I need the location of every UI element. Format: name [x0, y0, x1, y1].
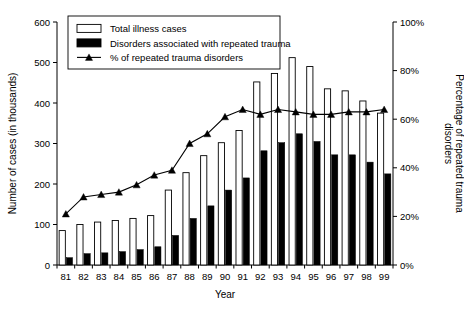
bar-repeated-trauma-disorders — [261, 151, 267, 265]
x-tick-label: 87 — [167, 271, 178, 282]
y-tick-label-left: 300 — [34, 138, 50, 149]
legend-label-total-illness-cases: Total illness cases — [110, 23, 187, 34]
percent-marker-triangle — [221, 113, 228, 119]
bar-total-illness-cases — [218, 143, 224, 265]
bar-repeated-trauma-disorders — [155, 247, 161, 265]
percent-marker-triangle — [239, 106, 246, 112]
bar-repeated-trauma-disorders — [349, 155, 355, 265]
y-tick-label-left: 200 — [34, 179, 50, 190]
y-tick-label-right: 100% — [400, 17, 425, 28]
x-tick-label: 84 — [114, 271, 125, 282]
x-tick-label: 92 — [255, 271, 266, 282]
legend-label-percent-trend: % of repeated trauma disorders — [110, 52, 243, 63]
bar-repeated-trauma-disorders — [66, 258, 72, 265]
bar-repeated-trauma-disorders — [279, 143, 285, 265]
legend-label-repeated-trauma-disorders: Disorders associated with repeated traum… — [110, 38, 291, 49]
bar-repeated-trauma-disorders — [296, 134, 302, 265]
bar-repeated-trauma-disorders — [172, 235, 178, 265]
bar-total-illness-cases — [254, 82, 260, 265]
bar-total-illness-cases — [307, 67, 313, 265]
bar-total-illness-cases — [271, 73, 277, 265]
y-tick-label-left: 400 — [34, 98, 50, 109]
bar-repeated-trauma-disorders — [119, 252, 125, 265]
x-tick-label: 89 — [202, 271, 213, 282]
chart-container: 01002003004005006000%20%40%60%80%100%818… — [0, 0, 464, 318]
y-tick-label-right: 20% — [400, 211, 420, 222]
y-tick-label-right: 0% — [400, 260, 414, 271]
bar-total-illness-cases — [59, 231, 65, 265]
bar-total-illness-cases — [236, 131, 242, 265]
bar-total-illness-cases — [377, 113, 383, 265]
x-tick-label: 81 — [61, 271, 72, 282]
bar-repeated-trauma-disorders — [226, 190, 232, 265]
illness-cases-chart: 01002003004005006000%20%40%60%80%100%818… — [0, 0, 464, 318]
percent-marker-triangle — [168, 167, 175, 173]
bar-repeated-trauma-disorders — [84, 254, 90, 265]
x-tick-label: 83 — [96, 271, 107, 282]
x-axis-title: Year — [215, 289, 236, 300]
x-tick-label: 96 — [326, 271, 337, 282]
x-tick-label: 97 — [344, 271, 355, 282]
x-tick-label: 93 — [273, 271, 284, 282]
y-axis-title-left: Number of cases (in thousands) — [7, 73, 18, 215]
x-tick-label: 91 — [237, 271, 248, 282]
bar-total-illness-cases — [95, 222, 101, 265]
bar-total-illness-cases — [77, 225, 83, 266]
y-tick-label-right: 60% — [400, 114, 420, 125]
y-tick-label-left: 500 — [34, 57, 50, 68]
bar-total-illness-cases — [183, 173, 189, 265]
y-axis-title-right: Percentage of repeated traumadisorders — [443, 74, 464, 213]
legend-swatch-total-illness-cases — [77, 24, 101, 32]
x-tick-label: 86 — [149, 271, 160, 282]
y-tick-label-left: 100 — [34, 219, 50, 230]
x-tick-label: 90 — [220, 271, 231, 282]
bar-total-illness-cases — [201, 156, 207, 265]
percent-marker-triangle — [133, 181, 140, 187]
bar-repeated-trauma-disorders — [385, 174, 391, 265]
y-tick-label-left: 600 — [34, 17, 50, 28]
bar-total-illness-cases — [112, 220, 118, 265]
bar-total-illness-cases — [342, 91, 348, 265]
bar-repeated-trauma-disorders — [243, 178, 249, 265]
bar-total-illness-cases — [130, 218, 136, 265]
percent-marker-triangle — [186, 140, 193, 146]
bar-repeated-trauma-disorders — [314, 141, 320, 265]
bar-repeated-trauma-disorders — [367, 162, 373, 265]
x-tick-label: 98 — [361, 271, 372, 282]
x-tick-label: 82 — [78, 271, 89, 282]
x-tick-label: 99 — [379, 271, 390, 282]
bar-repeated-trauma-disorders — [102, 253, 108, 265]
bar-total-illness-cases — [360, 101, 366, 265]
y-tick-label-left: 0 — [45, 260, 50, 271]
legend-swatch-repeated-trauma-disorders — [77, 39, 101, 47]
bar-repeated-trauma-disorders — [137, 250, 143, 265]
bar-total-illness-cases — [165, 190, 171, 265]
y-tick-label-right: 40% — [400, 162, 420, 173]
bar-repeated-trauma-disorders — [332, 155, 338, 265]
bar-total-illness-cases — [289, 58, 295, 265]
x-tick-label: 88 — [184, 271, 195, 282]
bar-repeated-trauma-disorders — [208, 206, 214, 265]
y-tick-label-right: 80% — [400, 65, 420, 76]
bar-repeated-trauma-disorders — [190, 218, 196, 265]
bar-total-illness-cases — [148, 216, 154, 265]
x-tick-label: 85 — [131, 271, 142, 282]
x-tick-label: 94 — [290, 271, 301, 282]
x-tick-label: 95 — [308, 271, 319, 282]
